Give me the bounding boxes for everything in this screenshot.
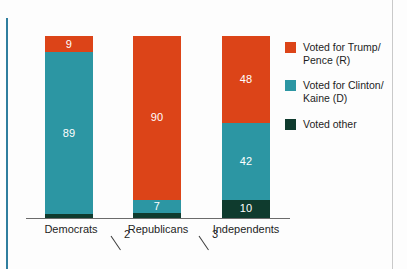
segment-value-label: 7: [154, 201, 160, 212]
segment-republicans-trump[interactable]: 90: [133, 36, 181, 200]
segment-value-label: 48: [240, 74, 253, 85]
segment-independents-clinton[interactable]: 42: [222, 123, 270, 199]
x-axis-baseline: [26, 218, 290, 219]
bar-democrats[interactable]: 9 89: [45, 36, 93, 218]
chart-legend: Voted for Trump/ Pence (R) Voted for Cli…: [285, 41, 390, 143]
legend-label: Voted for Clinton/ Kaine (D): [303, 79, 384, 105]
category-label-republicans: Republicans: [107, 223, 209, 236]
left-edge-rule: [6, 18, 8, 269]
legend-item-other[interactable]: Voted other: [285, 118, 390, 131]
legend-item-clinton[interactable]: Voted for Clinton/ Kaine (D): [285, 79, 390, 105]
legend-swatch-red: [285, 42, 296, 53]
bar-republicans[interactable]: 90 7: [133, 36, 181, 218]
segment-democrats-clinton[interactable]: 89: [45, 52, 93, 214]
legend-item-trump[interactable]: Voted for Trump/ Pence (R): [285, 41, 390, 67]
segment-value-label: 42: [240, 156, 253, 167]
legend-swatch-teal: [285, 80, 296, 91]
callout-line-democrats-other: [111, 236, 121, 251]
plot-area: 9 89 2 90 7 3 48 42: [26, 36, 290, 218]
segment-value-label: 89: [63, 128, 76, 139]
segment-independents-other[interactable]: 10: [222, 200, 270, 218]
segment-republicans-other[interactable]: [133, 213, 181, 219]
segment-independents-trump[interactable]: 48: [222, 36, 270, 123]
category-label-democrats: Democrats: [21, 223, 121, 236]
segment-democrats-trump[interactable]: 9: [45, 36, 93, 52]
segment-republicans-clinton[interactable]: 7: [133, 200, 181, 213]
segment-value-label: 10: [240, 203, 253, 214]
segment-value-label: 9: [66, 39, 72, 50]
segment-democrats-other[interactable]: [45, 214, 93, 218]
right-edge-rule: [392, 0, 393, 269]
legend-swatch-green: [285, 119, 296, 130]
bar-independents[interactable]: 48 42 10: [222, 36, 270, 218]
callout-line-republicans-other: [199, 236, 209, 251]
legend-label: Voted other: [303, 118, 357, 131]
legend-label: Voted for Trump/ Pence (R): [303, 41, 381, 67]
category-label-independents: Independents: [196, 223, 296, 236]
chart-figure: 9 89 2 90 7 3 48 42: [0, 0, 407, 269]
segment-value-label: 90: [151, 112, 164, 123]
